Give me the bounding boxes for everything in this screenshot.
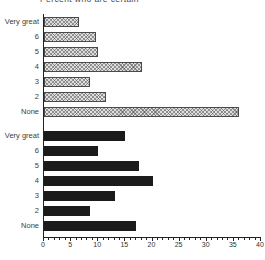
solid-bar <box>44 221 136 231</box>
category-label: 5 <box>0 44 39 59</box>
minor-tick <box>168 238 169 240</box>
bar-row: 4 <box>0 173 265 188</box>
x-tick-label: 30 <box>202 241 210 248</box>
minor-tick <box>135 238 136 240</box>
minor-tick <box>81 238 82 240</box>
minor-tick <box>130 238 131 240</box>
minor-tick <box>200 238 201 240</box>
category-label: 2 <box>0 89 39 104</box>
hatched-bar <box>44 77 90 87</box>
bar-row: 5 <box>0 44 265 59</box>
minor-tick <box>157 238 158 240</box>
solid-bar <box>44 176 153 186</box>
category-label: Very great <box>0 128 39 143</box>
hatched-bar <box>44 62 142 72</box>
x-tick-label: 15 <box>120 241 128 248</box>
x-tick-label: 35 <box>229 241 237 248</box>
category-label: 3 <box>0 188 39 203</box>
minor-tick <box>173 238 174 240</box>
category-label: 6 <box>0 29 39 44</box>
clipped-chart-title: Percent who are certain <box>40 0 190 5</box>
minor-tick <box>217 238 218 240</box>
solid-bar <box>44 161 139 171</box>
bar-row: Very great <box>0 14 265 29</box>
solid-bar <box>44 191 115 201</box>
bar-row: None <box>0 218 265 233</box>
minor-tick <box>162 238 163 240</box>
solid-bar <box>44 146 98 156</box>
minor-tick <box>227 238 228 240</box>
minor-tick <box>92 238 93 240</box>
x-tick-label: 10 <box>93 241 101 248</box>
minor-tick <box>76 238 77 240</box>
minor-tick <box>222 238 223 240</box>
solid-bar <box>44 131 125 141</box>
solid-bar-group: Very great65432None <box>0 128 265 233</box>
minor-tick <box>108 238 109 240</box>
minor-tick <box>255 238 256 240</box>
minor-tick <box>103 238 104 240</box>
bar-row: 3 <box>0 188 265 203</box>
hatched-bar-group: Very great65432None <box>0 14 265 119</box>
minor-tick <box>65 238 66 240</box>
x-tick-label: 20 <box>148 241 156 248</box>
minor-tick <box>114 238 115 240</box>
bar-row: 6 <box>0 29 265 44</box>
x-tick-label: 25 <box>175 241 183 248</box>
category-label: 6 <box>0 143 39 158</box>
minor-tick <box>189 238 190 240</box>
hatched-bar <box>44 47 98 57</box>
solid-bar <box>44 206 90 216</box>
minor-tick <box>59 238 60 240</box>
bar-chart-figure: Percent who are certain Very great65432N… <box>0 0 265 260</box>
hatched-bar <box>44 17 79 27</box>
minor-tick <box>211 238 212 240</box>
x-tick-label: 40 <box>256 241 264 248</box>
minor-tick <box>249 238 250 240</box>
minor-tick <box>184 238 185 240</box>
category-label: None <box>0 218 39 233</box>
x-tick-label: 5 <box>68 241 72 248</box>
minor-tick <box>195 238 196 240</box>
bar-row: 2 <box>0 203 265 218</box>
minor-tick <box>141 238 142 240</box>
minor-tick <box>119 238 120 240</box>
category-label: 5 <box>0 158 39 173</box>
category-label: 2 <box>0 203 39 218</box>
hatched-bar <box>44 107 239 117</box>
hatched-bar <box>44 92 106 102</box>
minor-tick <box>146 238 147 240</box>
minor-tick <box>238 238 239 240</box>
minor-tick <box>244 238 245 240</box>
x-tick-label: 0 <box>41 241 45 248</box>
bar-row: Very great <box>0 128 265 143</box>
hatched-bar <box>44 32 96 42</box>
bar-row: 6 <box>0 143 265 158</box>
bar-row: None <box>0 104 265 119</box>
category-label: Very great <box>0 14 39 29</box>
minor-tick <box>48 238 49 240</box>
category-label: 4 <box>0 59 39 74</box>
bar-row: 5 <box>0 158 265 173</box>
category-label: None <box>0 104 39 119</box>
bar-row: 2 <box>0 89 265 104</box>
bar-row: 3 <box>0 74 265 89</box>
category-label: 3 <box>0 74 39 89</box>
category-label: 4 <box>0 173 39 188</box>
bar-row: 4 <box>0 59 265 74</box>
clipped-chart-title-text: Percent who are certain <box>40 0 190 4</box>
minor-tick <box>54 238 55 240</box>
minor-tick <box>86 238 87 240</box>
